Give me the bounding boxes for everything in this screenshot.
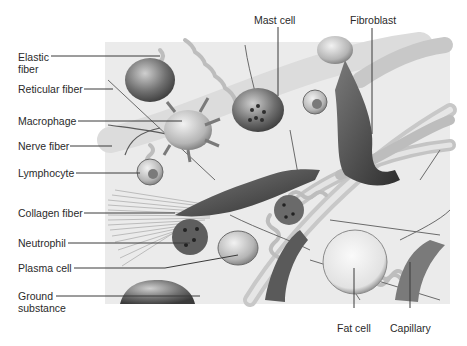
label-capillary: Capillary	[390, 322, 431, 334]
fat-cell-shape	[323, 230, 387, 294]
label-elastic-fiber: Elastic fiber	[18, 51, 78, 75]
label-elastic-fiber-line1: Elastic	[18, 51, 49, 63]
elastic-area-cell	[125, 58, 175, 102]
lymphocyte-shape	[137, 159, 163, 185]
label-plasma-cell: Plasma cell	[18, 262, 72, 274]
label-nerve-fiber: Nerve fiber	[18, 140, 69, 152]
label-ground-substance-line2: substance	[18, 302, 66, 314]
label-fat-cell: Fat cell	[337, 322, 371, 334]
plasma-cell-shape	[218, 231, 258, 265]
label-fibroblast: Fibroblast	[350, 14, 396, 26]
label-ground-substance-line1: Ground	[18, 290, 53, 302]
lymphocyte-upper-shape	[303, 90, 327, 114]
connective-tissue-diagram: Elastic fiber Reticular fiber Macrophage…	[0, 0, 467, 346]
label-collagen-fiber: Collagen fiber	[18, 207, 83, 219]
label-neutrophil: Neutrophil	[18, 237, 66, 249]
label-mast-cell: Mast cell	[254, 14, 295, 26]
label-lymphocyte: Lymphocyte	[18, 167, 74, 179]
neutrophil-upper-shape	[274, 195, 304, 225]
label-elastic-fiber-line2: fiber	[18, 63, 38, 75]
label-reticular-fiber: Reticular fiber	[18, 83, 83, 95]
label-ground-substance: Ground substance	[18, 290, 78, 314]
mast-cell-shape	[232, 88, 284, 132]
top-right-cell-shape	[317, 36, 353, 64]
label-macrophage: Macrophage	[18, 115, 76, 127]
neutrophil-shape	[172, 219, 208, 255]
